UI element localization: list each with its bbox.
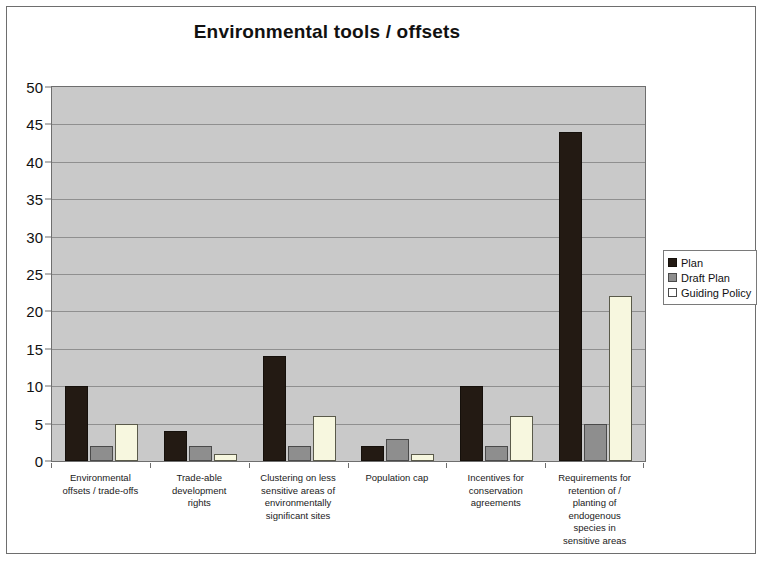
x-axis-tick-mark <box>51 463 52 468</box>
y-axis-tick-label: 20 <box>26 303 43 320</box>
bar-guiding-policy <box>214 454 237 461</box>
x-axis-category-label: Clustering on lesssensitive areas ofenvi… <box>250 472 346 522</box>
bar-group <box>349 87 448 461</box>
legend-item-label: Draft Plan <box>681 272 730 284</box>
y-axis-tick-label: 30 <box>26 228 43 245</box>
x-axis-tick-mark <box>545 463 546 468</box>
bar-guiding-policy <box>115 424 138 461</box>
chart-legend: PlanDraft PlanGuiding Policy <box>663 250 757 305</box>
x-axis-category-label-line: agreements <box>448 497 544 510</box>
bar-group <box>447 87 546 461</box>
bar-plan <box>460 386 483 461</box>
bar-draft-plan <box>189 446 212 461</box>
x-axis-category-label-line: Trade-able <box>151 472 247 485</box>
bar-guiding-policy <box>313 416 336 461</box>
bar-guiding-policy <box>609 296 632 461</box>
legend-item: Guiding Policy <box>668 285 751 300</box>
x-axis-tick-mark <box>150 463 151 468</box>
x-axis-category-label-line: Population cap <box>349 472 445 485</box>
bars-layer <box>52 87 645 461</box>
y-axis-tick-label: 0 <box>35 453 43 470</box>
x-axis-category-label-line: conservation <box>448 485 544 498</box>
y-axis: 50454035302520151050 <box>7 86 51 463</box>
bar-draft-plan <box>90 446 113 461</box>
x-axis-category-label-line: sensitive areas <box>547 535 643 548</box>
bar-group <box>151 87 250 461</box>
bar-guiding-policy <box>510 416 533 461</box>
legend-swatch-plan <box>668 258 677 267</box>
y-axis-tick-label: 10 <box>26 378 43 395</box>
x-axis-category-label-line: planting of <box>547 497 643 510</box>
legend-item-label: Guiding Policy <box>681 287 751 299</box>
x-axis-category-label: Trade-abledevelopmentrights <box>151 472 247 510</box>
bar-group <box>52 87 151 461</box>
bar-plan <box>361 446 384 461</box>
x-axis-category-label-line: offsets / trade-offs <box>52 485 148 498</box>
x-axis-category-label: Requirements forretention of /planting o… <box>547 472 643 547</box>
x-axis-category-label-line: Requirements for <box>547 472 643 485</box>
y-axis-tick-label: 40 <box>26 153 43 170</box>
x-axis-category-label-line: endogenous <box>547 510 643 523</box>
x-axis-category-label-line: significant sites <box>250 510 346 523</box>
x-axis-category-label-line: retention of / <box>547 485 643 498</box>
x-axis-category-label-line: Environmental <box>52 472 148 485</box>
legend-swatch-draft-plan <box>668 273 677 282</box>
bar-draft-plan <box>584 424 607 461</box>
x-axis-category-label: Incentives forconservationagreements <box>448 472 544 510</box>
bar-plan <box>164 431 187 461</box>
x-axis-category-label-line: Incentives for <box>448 472 544 485</box>
x-axis-tick-mark <box>446 463 447 468</box>
chart-title: Environmental tools / offsets <box>7 21 647 43</box>
x-axis-category-label-line: Clustering on less <box>250 472 346 485</box>
bar-group <box>546 87 645 461</box>
legend-item: Plan <box>668 255 751 270</box>
plot-area <box>51 86 646 462</box>
x-axis: Environmentaloffsets / trade-offsTrade-a… <box>51 463 647 563</box>
x-axis-category-label: Environmentaloffsets / trade-offs <box>52 472 148 497</box>
x-axis-category-label-line: development <box>151 485 247 498</box>
bar-plan <box>559 132 582 461</box>
bar-draft-plan <box>386 439 409 461</box>
x-axis-category-label-line: sensitive areas of <box>250 485 346 498</box>
bar-group <box>250 87 349 461</box>
chart-figure: Environmental tools / offsets 5045403530… <box>6 6 756 554</box>
bar-plan <box>263 356 286 461</box>
x-axis-category-label: Population cap <box>349 472 445 485</box>
y-axis-tick-label: 35 <box>26 191 43 208</box>
bar-draft-plan <box>288 446 311 461</box>
bar-guiding-policy <box>411 454 434 461</box>
legend-swatch-guiding-policy <box>668 288 677 297</box>
x-axis-tick-mark <box>643 463 644 468</box>
y-axis-tick-label: 25 <box>26 266 43 283</box>
y-axis-tick-label: 5 <box>35 415 43 432</box>
x-axis-category-label-line: rights <box>151 497 247 510</box>
bar-draft-plan <box>485 446 508 461</box>
x-axis-tick-mark <box>249 463 250 468</box>
y-axis-tick-label: 50 <box>26 79 43 96</box>
y-axis-tick-label: 15 <box>26 340 43 357</box>
x-axis-tick-mark <box>348 463 349 468</box>
y-axis-tick-label: 45 <box>26 116 43 133</box>
legend-item: Draft Plan <box>668 270 751 285</box>
x-axis-category-label-line: environmentally <box>250 497 346 510</box>
x-axis-category-label-line: species in <box>547 522 643 535</box>
legend-item-label: Plan <box>681 257 703 269</box>
bar-plan <box>65 386 88 461</box>
